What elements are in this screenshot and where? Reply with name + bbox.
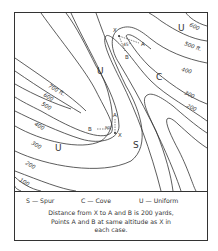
region-label-uniform: U — [55, 143, 62, 153]
legend-note: Distance from X to A and B is 200 yards,… — [15, 209, 207, 235]
point-a-label: A — [113, 112, 117, 118]
legend-spur: S — Spur — [26, 197, 54, 204]
point-b-label: B — [125, 54, 129, 60]
legend-cove: C — Cove — [81, 197, 111, 204]
point-b-label: B — [88, 126, 92, 132]
contour-label: 500 ft. — [184, 40, 203, 52]
note-line: each case. — [15, 226, 207, 235]
contour-label: 300 — [31, 140, 44, 151]
region-label-uniform: U — [97, 66, 104, 76]
contour-line — [15, 13, 112, 145]
contour-label: 400 — [34, 121, 47, 132]
region-label-uniform: U — [178, 23, 185, 33]
legend-uniform: U — Uniform — [139, 197, 178, 204]
point-a-label: A — [141, 41, 145, 47]
angle-label: 45° — [123, 42, 131, 47]
diagram-frame: 600 500 ft. 400 300 200 700 ft. 600 500 … — [14, 12, 208, 241]
region-label-spur: S — [133, 140, 139, 150]
contour-line — [105, 35, 207, 191]
angle-label: 90° — [105, 125, 112, 130]
region-label-cove: C — [156, 72, 162, 82]
note-line: Points A and B at same altitude as X in — [15, 218, 207, 227]
contour-label: 500 — [41, 101, 54, 112]
contour-label: 200 — [25, 160, 38, 171]
contour-label: 400 — [181, 66, 193, 75]
point-x-label: X — [113, 27, 117, 33]
legend: S — Spur C — Cove U — Uniform Distance f… — [15, 191, 207, 241]
note-line: Distance from X to A and B is 200 yards, — [15, 209, 207, 218]
contour-map: 600 500 ft. 400 300 200 700 ft. 600 500 … — [15, 13, 207, 191]
point-x-label: X — [118, 132, 122, 138]
contour-label: 100 — [19, 177, 32, 188]
